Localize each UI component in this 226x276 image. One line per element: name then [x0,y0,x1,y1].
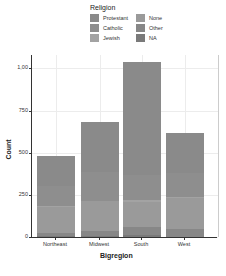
legend-label: Catholic [103,25,123,31]
legend-title: Religion [90,4,166,11]
legend: Religion ProtestantNoneCatholicOtherJewi… [90,4,166,42]
legend-label: Jewish [103,35,120,41]
bar-segment-other [123,227,161,235]
bar-segment-protestant [123,62,161,175]
bar-segment-none [166,198,204,228]
legend-label: NA [149,35,157,41]
x-tick-mark [184,237,185,240]
legend-swatch [136,34,145,42]
legend-label: Other [149,25,163,31]
bar-segment-protestant [166,133,204,173]
bar-segment-protestant [81,122,119,173]
x-tick-label: Northeast [35,241,75,247]
x-tick-mark [55,237,56,240]
legend-item: Protestant [90,14,136,22]
x-axis-line [31,237,217,238]
bar-segment-none [123,202,161,227]
y-tick-label: 250 [12,191,28,197]
y-tick-label: 1,00 [12,64,28,70]
x-tick-mark [99,237,100,240]
bar-west [166,133,204,237]
legend-swatch [136,24,145,32]
x-axis-title: Bigregion [100,252,133,259]
y-tick-mark [29,153,32,154]
legend-item: Jewish [90,34,136,42]
bar-segment-catholic [166,173,204,197]
bar-segment-other [166,229,204,237]
legend-swatch [90,34,99,42]
x-tick-label: Midwest [79,241,119,247]
bar-segment-none [37,207,75,233]
y-tick-label: 750 [12,107,28,113]
legend-swatch [90,14,99,22]
plot-area: 02505007501,00 [31,55,219,237]
legend-label: Protestant [103,15,128,21]
legend-item: None [136,14,166,22]
y-tick-mark [29,111,32,112]
legend-label: None [149,15,162,21]
legend-swatch [90,24,99,32]
legend-swatch [136,14,145,22]
legend-item: NA [136,34,166,42]
legend-item: Other [136,24,166,32]
y-tick-label: 500 [12,149,28,155]
bar-northeast [37,156,75,237]
bar-midwest [81,122,119,237]
bar-segment-protestant [37,156,75,186]
y-tick-label: 0 [12,233,28,239]
bar-south [123,62,161,237]
legend-items: ProtestantNoneCatholicOtherJewishNA [90,14,166,42]
legend-item: Catholic [90,24,136,32]
y-axis-title: Count [5,139,12,159]
bar-segment-catholic [123,175,161,200]
bar-segment-catholic [81,172,119,201]
x-tick-mark [141,237,142,240]
y-tick-mark [29,195,32,196]
bar-segment-catholic [37,186,75,206]
y-tick-mark [29,68,32,69]
x-tick-label: South [121,241,161,247]
x-tick-label: West [164,241,204,247]
bar-segment-none [81,201,119,230]
